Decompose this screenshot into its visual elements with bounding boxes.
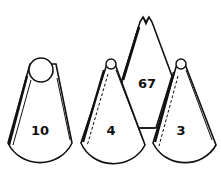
piping-tips-diagram: 67 10 4 3: [0, 0, 221, 184]
tip-label-3: 3: [176, 123, 185, 138]
tip-label-4: 4: [106, 123, 115, 138]
tip-label-67: 67: [138, 76, 156, 91]
tip-label-10: 10: [31, 123, 49, 138]
tip-10: 10: [8, 58, 72, 163]
